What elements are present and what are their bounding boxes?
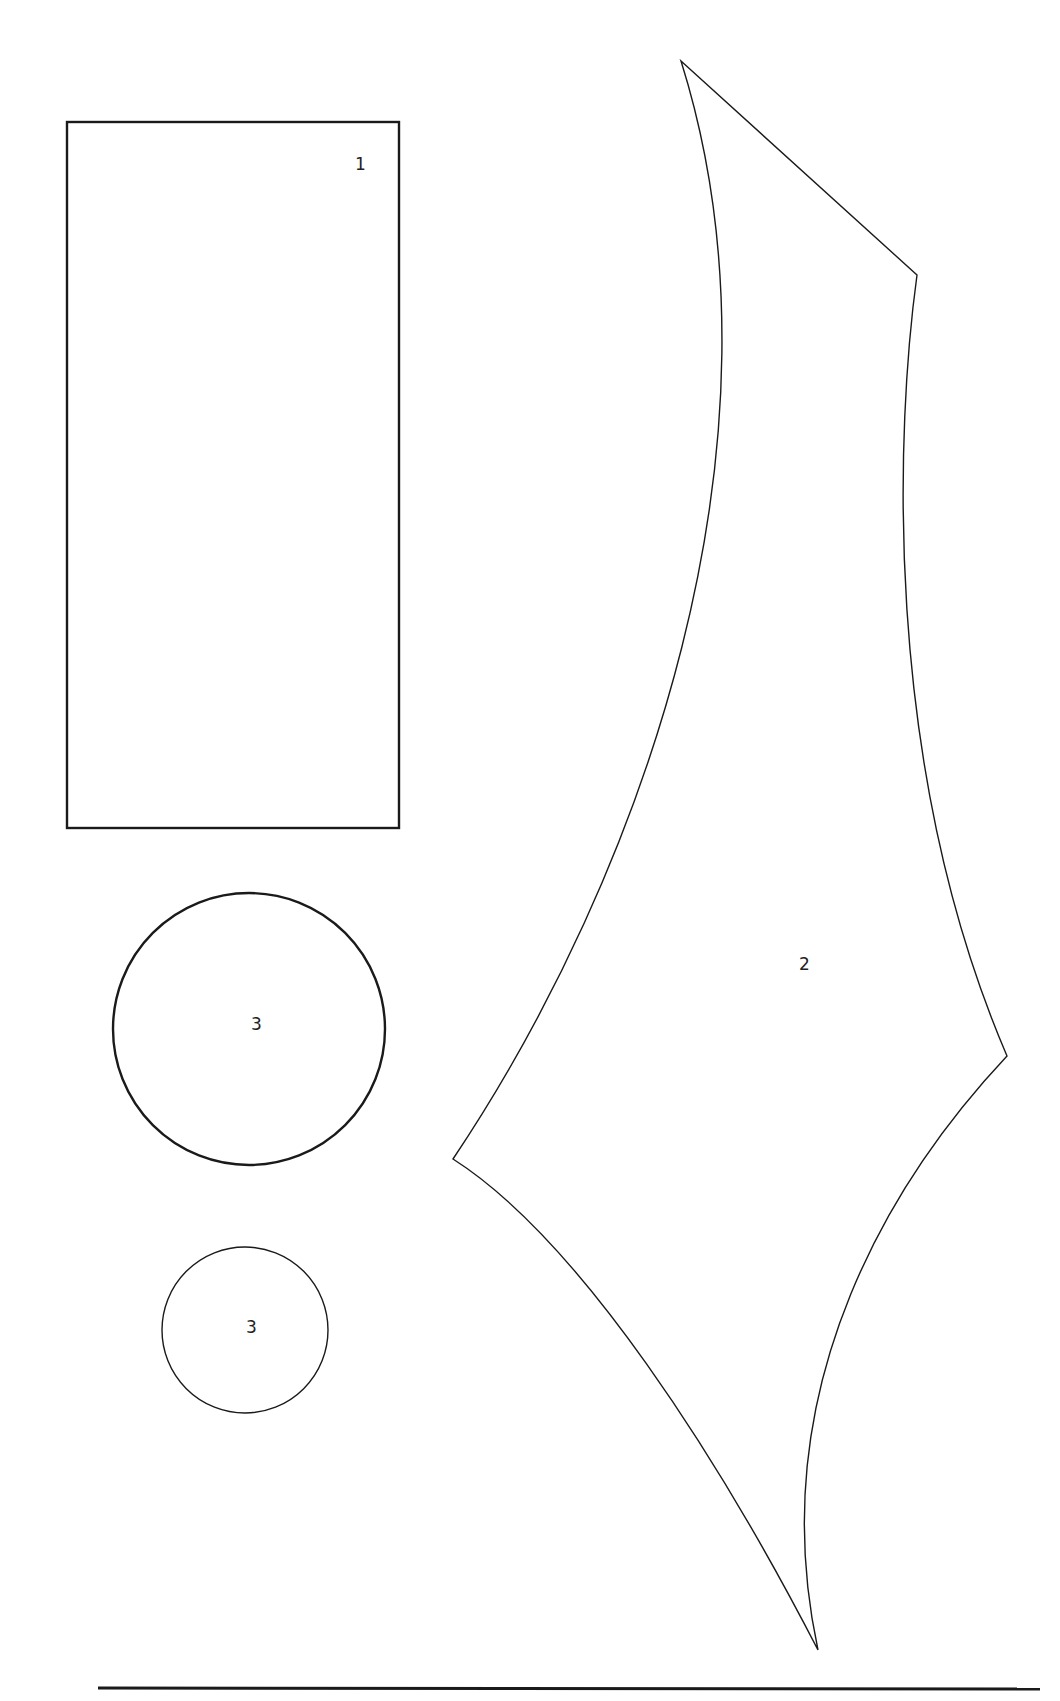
shape-1-rectangle: 1 (67, 122, 399, 828)
shape-1-label: 1 (355, 154, 366, 174)
shape-3-large-circle: 3 (113, 893, 385, 1165)
shape-3-small-label: 3 (246, 1317, 257, 1337)
shape-2-label: 2 (799, 954, 810, 974)
shape-3-small-circle: 3 (162, 1247, 328, 1413)
shape-2-curved-quad: 2 (453, 61, 1007, 1650)
bottom-rule (98, 1688, 1040, 1689)
pattern-sheet: 1 2 3 3 (0, 0, 1060, 1701)
shape-3-large-label: 3 (251, 1014, 262, 1034)
